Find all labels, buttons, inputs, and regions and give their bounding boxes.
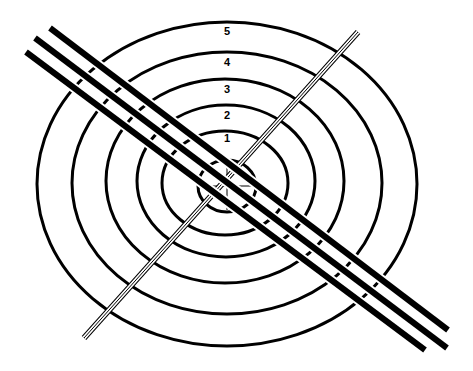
ring-label-5: 5 bbox=[224, 25, 230, 37]
ring-label-4: 4 bbox=[224, 56, 231, 68]
ring-label-2: 2 bbox=[224, 109, 230, 121]
ring-labels: 54321 bbox=[224, 25, 231, 144]
ring-label-1: 1 bbox=[224, 132, 230, 144]
thick-line-1 bbox=[50, 28, 448, 330]
ring-label-3: 3 bbox=[224, 83, 230, 95]
target-diagram: 54321 bbox=[0, 0, 473, 371]
thick-line-3 bbox=[26, 52, 425, 350]
thick-parallel-lines bbox=[26, 28, 448, 350]
